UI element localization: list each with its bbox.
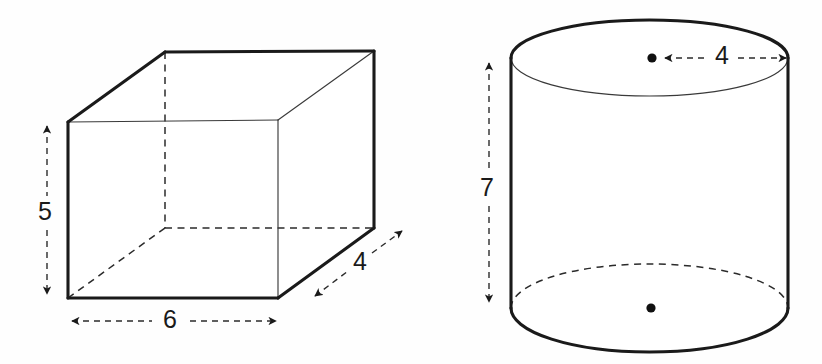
box-depth-dim-line-upper (372, 231, 402, 253)
cylinder-silhouette-fill (511, 20, 788, 352)
box-height-dimension: 5 (38, 126, 52, 294)
cylinder-radius-label: 4 (715, 41, 729, 69)
geometry-figure-canvas: 5 6 4 (0, 0, 822, 364)
cylinder-bottom-center-dot (646, 303, 655, 312)
cylinder-top-center-dot (647, 53, 656, 62)
box-top-back-edge (165, 51, 374, 52)
box-depth-label: 4 (353, 247, 367, 275)
geometry-diagram-svg: 5 6 4 (0, 0, 822, 364)
box-width-label: 6 (163, 305, 177, 333)
cylinder-height-label: 7 (480, 173, 494, 201)
cylinder-shape (511, 20, 788, 352)
cylinder-height-dimension: 7 (480, 63, 494, 302)
rectangular-prism-shape (68, 51, 374, 298)
box-height-label: 5 (38, 197, 52, 225)
box-depth-dim-line-lower (315, 271, 348, 296)
box-width-dimension: 6 (72, 305, 276, 333)
